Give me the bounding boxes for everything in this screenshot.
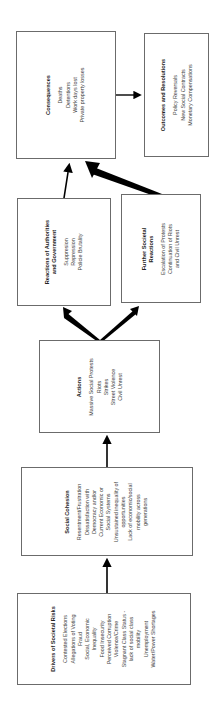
drivers-box: Drivers of Societal Risks Contested Elec… (17, 593, 191, 685)
further-item: Continuation of Riots (167, 197, 174, 301)
arrow-reactions-to-consequences (64, 166, 69, 198)
cohesion-item: Unsustained inequality of (113, 468, 120, 556)
social-cohesion-box: Social Cohesion Resentment/Frustration D… (21, 467, 193, 556)
outcomes-item: Policy Reversals (172, 35, 179, 155)
drivers-item: Stagnant Class Status - (121, 594, 128, 684)
consequences-item: Deaths (58, 35, 65, 155)
drivers-item: Violence/Crime (114, 594, 121, 684)
reactions-title-line1: Reactions of Authorities (44, 200, 51, 304)
reactions-title-line2: and Government (51, 200, 58, 304)
cohesion-title: Social Cohesion (64, 468, 71, 556)
consequences-item: Private property losses (79, 35, 86, 155)
drivers-item: Water/Power Shortages (150, 594, 157, 684)
consequences-title: Consequences (45, 35, 52, 155)
actions-item: Civil Unrest (117, 342, 124, 432)
further-item: Escalation of Protests (159, 197, 166, 301)
actions-box: Actions Massive Social Protests Riots St… (39, 340, 160, 433)
drivers-item: lack of social class (128, 594, 135, 684)
reactions-item: Suppresion (62, 200, 69, 304)
further-reactions-box: Further Societal Reactions Escalation of… (121, 194, 201, 303)
drivers-item: Allegations of Voting (70, 594, 77, 684)
reactions-item: Repression (70, 200, 77, 304)
cohesion-item: Current Economic or (99, 468, 106, 556)
further-title-line1: Further Societal (141, 197, 148, 301)
actions-title: Actions (75, 342, 82, 432)
consequences-item: Detentions (65, 35, 72, 155)
actions-item: Strikes (102, 342, 109, 432)
consequences-item: Work days lost (72, 35, 79, 155)
further-item: and Civil Unrest (174, 197, 181, 301)
drivers-title: Drivers of Societal Risks (50, 594, 57, 684)
cohesion-item: opportunities (120, 468, 127, 556)
reactions-item: Policie Brutality (77, 200, 84, 304)
reactions-authorities-box: Reactions of Authorities and Government … (17, 198, 111, 306)
outcomes-box: Outcomes and Resolutions Policy Reversal… (144, 33, 209, 157)
drivers-item: Social, Economic (85, 594, 92, 684)
actions-item: Massive Social Protests (87, 342, 94, 432)
cohesion-item: Social Systems (106, 468, 113, 556)
cohesion-item: Lack of economic/social (128, 468, 135, 556)
further-title-line2: Reactions (148, 197, 155, 301)
drivers-item: Perceived Corruption (106, 594, 113, 684)
drivers-item: mobility (136, 594, 143, 684)
actions-item: Street Violence (109, 342, 116, 432)
cohesion-item: mobility across (135, 468, 142, 556)
consequences-box: Consequences Deaths Detentions Work days… (16, 31, 116, 159)
drivers-item: Fraud (77, 594, 84, 684)
drivers-item: Food Insecurity (99, 594, 106, 684)
arrow-actions-to-reactions (64, 312, 100, 342)
arrow-actions-to-further (100, 310, 136, 342)
outcomes-item: New Social Contracts (179, 35, 186, 155)
drivers-item: Inequality (92, 594, 99, 684)
cohesion-item: Democracy and/or (91, 468, 98, 556)
drivers-item: Contested Elections (63, 594, 70, 684)
cohesion-item: generations (142, 468, 149, 556)
cohesion-item: Resentment/Frustration (77, 468, 84, 556)
drivers-item: Unemployment (143, 594, 150, 684)
outcomes-item: Monetary Compensations (186, 35, 193, 155)
cohesion-item: Dissatisfaction with (84, 468, 91, 556)
actions-item: Riots (95, 342, 102, 432)
outcomes-title: Outcomes and Resolutions (159, 35, 166, 155)
